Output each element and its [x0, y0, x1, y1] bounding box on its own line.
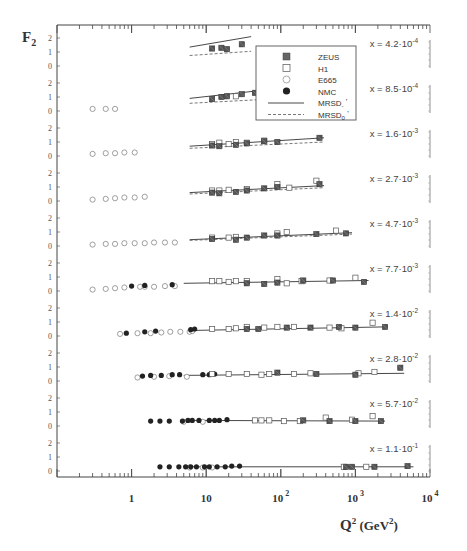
e665-point — [148, 331, 153, 336]
e665-legend-icon — [283, 76, 290, 83]
y-tick-label-2: 2 — [48, 259, 52, 268]
panel-x-label: x = 8.5·10-4 — [370, 82, 419, 94]
e665-point — [112, 106, 117, 111]
e665-point — [135, 375, 140, 380]
h1-legend-icon — [283, 65, 290, 72]
y-tick-label-2: 2 — [48, 79, 52, 88]
y-tick-label-1: 1 — [48, 93, 52, 102]
h1-point — [333, 228, 338, 233]
y-tick-label-2: 2 — [48, 394, 52, 403]
panel-2: 012x = 8.5·10-4 — [48, 79, 430, 116]
zeus-legend-icon — [283, 53, 290, 60]
e665-point — [90, 242, 95, 247]
e665-point — [112, 241, 117, 246]
legend-label: ZEUS — [318, 53, 339, 62]
y-tick-label-0: 0 — [48, 107, 52, 116]
nmc-point — [180, 419, 185, 424]
h1-point — [226, 279, 231, 284]
y-tick-label-0: 0 — [48, 377, 52, 386]
nmc-point — [207, 418, 212, 423]
y-tick-label-1: 1 — [48, 228, 52, 237]
y-tick-label-2: 2 — [48, 304, 52, 313]
x-axis: 11010 210 310 4Q2 (GeV2) — [129, 489, 439, 533]
h1-point — [226, 187, 231, 192]
nmc-point — [148, 373, 153, 378]
h1-point — [267, 418, 272, 423]
f2-structure-function-chart: 012x = 4.2·10-4012x = 8.5·10-4012x = 1.6… — [0, 0, 467, 551]
e665-point — [112, 196, 117, 201]
y-tick-label-1: 1 — [48, 453, 52, 462]
e665-point — [162, 284, 167, 289]
nmc-point — [202, 464, 207, 469]
nmc-point — [157, 419, 162, 424]
h1-point — [353, 275, 358, 280]
e665-point — [103, 286, 108, 291]
h1-point — [372, 369, 377, 374]
panel-5: 012x = 4.7·10-3 — [48, 214, 430, 251]
nmc-point — [194, 464, 199, 469]
e665-point — [90, 287, 95, 292]
nmc-point — [142, 283, 147, 288]
e665-point — [159, 330, 164, 335]
h1-point — [327, 325, 332, 330]
legend-label: H1 — [318, 65, 329, 74]
y-tick-label-1: 1 — [48, 273, 52, 282]
e665-point — [112, 151, 117, 156]
h1-point — [262, 325, 267, 330]
x-tick-label: 10 4 — [422, 489, 439, 504]
nmc-point — [183, 464, 188, 469]
e665-point — [135, 331, 140, 336]
panel-8: 012x = 2.8·10-2 — [48, 349, 430, 386]
x-tick-label: 10 3 — [347, 489, 364, 504]
h1-point — [226, 326, 231, 331]
y-tick-label-1: 1 — [48, 363, 52, 372]
nmc-point — [140, 374, 145, 379]
e665-point — [90, 106, 95, 111]
nmc-point — [196, 418, 201, 423]
panel-4: 012x = 2.7·10-3 — [48, 169, 430, 206]
panel-1: 012x = 4.2·10-4 — [48, 34, 430, 71]
nmc-point — [200, 372, 205, 377]
panel-x-label: x = 1.1·10-1 — [370, 442, 419, 454]
e665-point — [122, 195, 127, 200]
h1-point — [259, 418, 264, 423]
nmc-point — [176, 464, 181, 469]
h1-point — [226, 371, 231, 376]
panel-x-label: x = 1.4·10-2 — [370, 307, 419, 319]
e665-point — [103, 241, 108, 246]
x-axis-label: Q2 (GeV2) — [340, 516, 398, 533]
panel-x-label: x = 5.7·10-2 — [370, 397, 419, 409]
panels: 012x = 4.2·10-4012x = 8.5·10-4012x = 1.6… — [48, 34, 430, 476]
y-tick-label-0: 0 — [48, 467, 52, 476]
x-tick-label: 10 2 — [272, 489, 289, 504]
y-tick-label-2: 2 — [48, 124, 52, 133]
nmc-point — [159, 373, 164, 378]
y-tick-label-2: 2 — [48, 214, 52, 223]
h1-point — [291, 324, 296, 329]
e665-point — [117, 331, 122, 336]
y-tick-label-2: 2 — [48, 34, 52, 43]
h1-point — [252, 418, 257, 423]
y-tick-label-0: 0 — [48, 287, 52, 296]
h1-point — [210, 326, 215, 331]
legend-label: MRSD- ' — [318, 97, 348, 109]
nmc-point — [207, 464, 212, 469]
nmc-point — [237, 464, 242, 469]
nmc-point — [167, 419, 172, 424]
nmc-point — [170, 372, 175, 377]
panel-3: 012x = 1.6·10-3 — [48, 124, 430, 161]
nmc-point — [188, 464, 193, 469]
h1-point — [233, 279, 238, 284]
e665-point — [168, 329, 173, 334]
nmc-point — [142, 329, 147, 334]
e665-point — [103, 106, 108, 111]
h1-point — [284, 281, 289, 286]
e665-point — [162, 240, 167, 245]
panel-x-label: x = 4.7·10-3 — [370, 217, 419, 229]
panel-x-label: x = 2.7·10-3 — [370, 172, 419, 184]
y-tick-label-2: 2 — [48, 169, 52, 178]
h1-point — [217, 279, 222, 284]
nmc-point — [229, 464, 234, 469]
h1-point — [291, 371, 296, 376]
mrsd-zero-curve — [190, 51, 251, 55]
